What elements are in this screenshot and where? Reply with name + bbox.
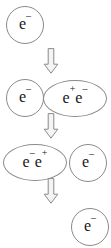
electron-charge-glyph: –: [89, 148, 94, 159]
particle-bubble-pair-step2: e+e–: [43, 80, 107, 117]
particle-label-electron-step2: e–: [19, 89, 31, 105]
particle-bubble-electron-step4: e–: [71, 208, 109, 246]
positron-base-glyph: e: [63, 89, 70, 106]
particle-label-electron-step1: e–: [19, 16, 31, 32]
positron-charge-glyph: +: [42, 147, 48, 158]
down-arrow-icon-1: [43, 48, 59, 74]
electron-base-glyph: e: [84, 217, 91, 234]
particle-label-electron-step4: e–: [84, 218, 96, 234]
down-arrow-icon-3: [43, 178, 59, 204]
particle-label-pair-step3: e–e+: [23, 154, 48, 170]
pair-production-diagram: e– e– e+e– e–e+ e– e–: [0, 0, 111, 248]
electron-charge-glyph: –: [30, 147, 35, 158]
electron-base-glyph: e: [19, 88, 26, 105]
particle-label-electron-step3: e–: [82, 154, 94, 170]
positron-charge-glyph: +: [70, 83, 76, 94]
electron-base-glyph: e: [23, 153, 30, 170]
down-arrow-icon-2: [43, 113, 59, 139]
particle-bubble-electron-step2: e–: [6, 79, 44, 117]
electron-base-glyph: e: [82, 153, 89, 170]
particle-bubble-electron-step1: e–: [6, 6, 44, 44]
particle-bubble-electron-step3: e–: [69, 144, 107, 182]
electron-charge-glyph: –: [91, 212, 96, 223]
electron-charge-glyph: –: [82, 83, 87, 94]
particle-label-pair-step2: e+e–: [63, 90, 88, 106]
electron-charge-glyph: –: [26, 83, 31, 94]
particle-bubble-pair-step3: e–e+: [3, 144, 67, 181]
positron-base-glyph: e: [35, 153, 42, 170]
electron-charge-glyph: –: [26, 10, 31, 21]
electron-base-glyph: e: [19, 15, 26, 32]
